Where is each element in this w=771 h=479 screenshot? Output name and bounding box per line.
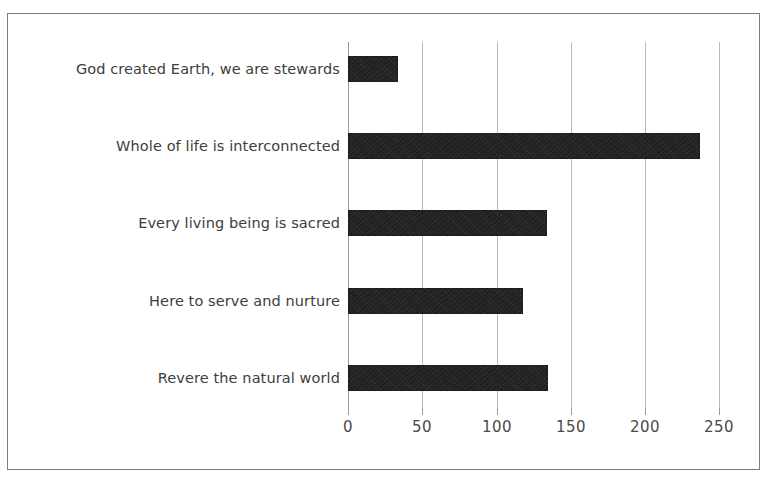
tickmark-50 xyxy=(422,408,423,415)
bar-chart-figure: 0 50 100 150 200 250 God created Earth, … xyxy=(0,0,771,479)
category-label-4: Revere the natural world xyxy=(10,370,340,386)
tickmark-0 xyxy=(348,408,349,415)
x-tick-label-100: 100 xyxy=(482,418,512,436)
x-tick-label-250: 250 xyxy=(704,418,734,436)
bar-4 xyxy=(348,365,548,391)
category-label-0: God created Earth, we are stewards xyxy=(10,61,340,77)
gridline-200 xyxy=(645,42,646,408)
gridline-150 xyxy=(571,42,572,408)
bar-0 xyxy=(348,56,398,82)
tickmark-100 xyxy=(497,408,498,415)
x-tick-label-0: 0 xyxy=(343,418,353,436)
bar-3 xyxy=(348,288,523,314)
tickmark-150 xyxy=(571,408,572,415)
category-label-2: Every living being is sacred xyxy=(10,215,340,231)
tickmark-200 xyxy=(645,408,646,415)
x-tick-label-200: 200 xyxy=(630,418,660,436)
category-label-3: Here to serve and nurture xyxy=(10,293,340,309)
plot-area: 0 50 100 150 200 250 God created Earth, … xyxy=(0,0,771,479)
bar-2 xyxy=(348,210,547,236)
bar-1 xyxy=(348,133,700,159)
x-tick-label-50: 50 xyxy=(412,418,432,436)
category-label-1: Whole of life is interconnected xyxy=(10,138,340,154)
gridline-250 xyxy=(719,42,720,408)
x-tick-label-150: 150 xyxy=(556,418,586,436)
tickmark-250 xyxy=(719,408,720,415)
